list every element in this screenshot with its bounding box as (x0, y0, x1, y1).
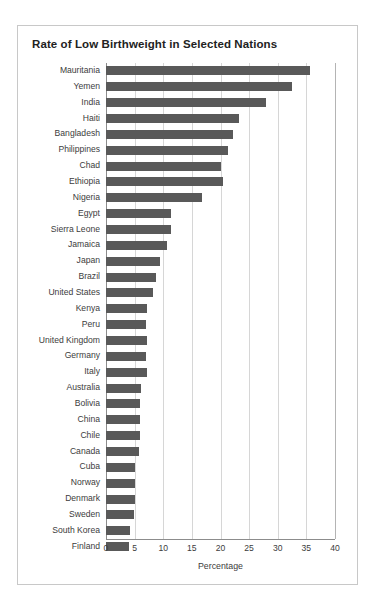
bar-row: Sweden (106, 507, 335, 523)
bar (106, 384, 141, 393)
bar-row: Italy (106, 364, 335, 380)
bar-row: Chad (106, 158, 335, 174)
x-tick-label: 15 (187, 543, 197, 553)
category-label: Chile (80, 428, 100, 444)
bar-row: Chile (106, 428, 335, 444)
category-label: Nigeria (73, 190, 100, 206)
bar-row: Bolivia (106, 396, 335, 412)
bar-row: Egypt (106, 206, 335, 222)
category-label: Egypt (78, 206, 100, 222)
category-label: United Kingdom (39, 333, 100, 349)
bar-row: Yemen (106, 79, 335, 95)
bar (106, 241, 167, 250)
category-label: Sweden (69, 507, 100, 523)
bar-row: Cuba (106, 459, 335, 475)
x-axis-label: Percentage (106, 561, 335, 571)
category-label: Canada (70, 444, 100, 460)
chart-panel: Rate of Low Birthweight in Selected Nati… (17, 25, 358, 585)
category-label: Mauritania (60, 63, 100, 79)
bar-row: Bangladesh (106, 126, 335, 142)
bar (106, 114, 239, 123)
category-label: Brazil (79, 269, 101, 285)
bar (106, 209, 171, 218)
bar (106, 415, 140, 424)
bar (106, 336, 147, 345)
bar-row: United States (106, 285, 335, 301)
bar-row: Norway (106, 475, 335, 491)
bar (106, 193, 202, 202)
bar (106, 399, 140, 408)
bar-row: Australia (106, 380, 335, 396)
category-label: Australia (67, 380, 100, 396)
x-tick-label: 35 (302, 543, 312, 553)
bar-row: India (106, 95, 335, 111)
bar (106, 479, 135, 488)
category-label: Peru (82, 317, 100, 333)
screenshot-root: Rate of Low Birthweight in Selected Nati… (0, 0, 376, 607)
category-label: Germany (65, 348, 100, 364)
category-label: Bangladesh (55, 126, 100, 142)
x-tick-label: 0 (104, 543, 109, 553)
category-label: Yemen (74, 79, 100, 95)
bar-row: Germany (106, 348, 335, 364)
x-tick-label: 10 (158, 543, 168, 553)
category-label: Bolivia (75, 396, 100, 412)
category-label: India (81, 95, 100, 111)
bar-row: Nigeria (106, 190, 335, 206)
bar-row: Canada (106, 444, 335, 460)
category-label: Philippines (58, 142, 100, 158)
x-tick-label: 30 (273, 543, 283, 553)
bar (106, 368, 147, 377)
bar (106, 177, 223, 186)
bar (106, 495, 135, 504)
bar (106, 146, 228, 155)
bar (106, 526, 130, 535)
bar-row: Haiti (106, 111, 335, 127)
x-tick-label: 20 (216, 543, 226, 553)
x-tick-label: 5 (132, 543, 137, 553)
category-label: Denmark (65, 491, 100, 507)
bar (106, 130, 233, 139)
bar-row: Mauritania (106, 63, 335, 79)
category-label: South Korea (52, 523, 100, 539)
bar (106, 510, 134, 519)
bar (106, 320, 146, 329)
bar-rows: MauritaniaYemenIndiaHaitiBangladeshPhili… (106, 63, 335, 555)
category-label: Chad (79, 158, 100, 174)
category-label: Japan (77, 253, 100, 269)
bar-row: Peru (106, 317, 335, 333)
bar-row: Ethiopia (106, 174, 335, 190)
bar (106, 431, 140, 440)
category-label: Ethiopia (69, 174, 100, 190)
bar (106, 288, 153, 297)
bar-row: Sierra Leone (106, 222, 335, 238)
bar (106, 463, 135, 472)
bar (106, 98, 266, 107)
bar (106, 352, 146, 361)
bar (106, 82, 292, 91)
bar-row: Japan (106, 253, 335, 269)
category-label: Norway (71, 475, 100, 491)
bar-row: Brazil (106, 269, 335, 285)
x-tick-label: 25 (244, 543, 254, 553)
bar (106, 304, 147, 313)
bar (106, 273, 156, 282)
x-axis-ticks: 0510152025303540 (106, 543, 335, 557)
category-label: China (78, 412, 100, 428)
bar-row: Philippines (106, 142, 335, 158)
bar-row: China (106, 412, 335, 428)
bar-row: United Kingdom (106, 333, 335, 349)
category-label: Kenya (76, 301, 100, 317)
category-label: Jamaica (68, 237, 100, 253)
category-label: Italy (84, 364, 100, 380)
bar (106, 162, 221, 171)
bar-row: South Korea (106, 523, 335, 539)
gridline-40 (335, 63, 336, 539)
bar-row: Jamaica (106, 237, 335, 253)
category-label: Haiti (83, 111, 100, 127)
plot-area: MauritaniaYemenIndiaHaitiBangladeshPhili… (106, 39, 335, 537)
bar (106, 257, 160, 266)
bar-row: Denmark (106, 491, 335, 507)
category-label: Sierra Leone (51, 222, 100, 238)
x-tick-label: 40 (330, 543, 340, 553)
